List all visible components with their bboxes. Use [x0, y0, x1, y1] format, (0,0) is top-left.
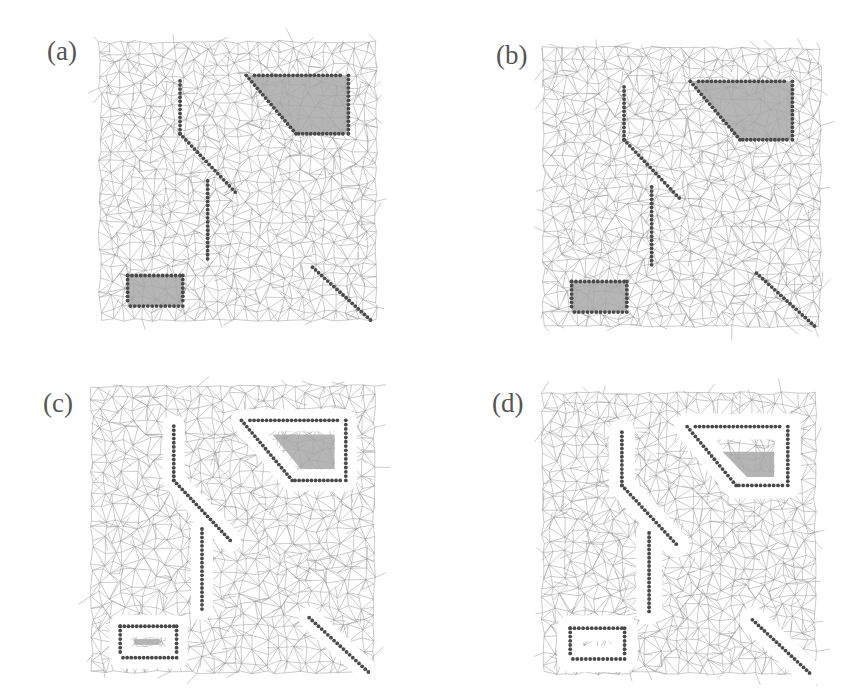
obstacle-node	[172, 441, 176, 445]
obstacle-node	[335, 288, 339, 292]
obstacle-node	[622, 93, 626, 97]
obstacle-node	[206, 216, 210, 220]
obstacle-node	[178, 107, 182, 111]
obstacle-node	[568, 626, 572, 630]
obstacle-node	[134, 274, 138, 278]
obstacle-node	[672, 190, 676, 194]
obstacle-node	[625, 310, 629, 314]
obstacle-node	[172, 458, 176, 462]
obstacle-node	[320, 274, 324, 278]
obstacle-node	[204, 159, 208, 163]
obstacle-node	[777, 138, 781, 142]
obstacle-node	[741, 484, 745, 488]
obstacle-node	[225, 181, 229, 185]
obstacle-node	[710, 425, 714, 429]
obstacle-node	[722, 79, 726, 83]
obstacle-node	[200, 573, 204, 577]
obstacle-node	[570, 300, 574, 304]
obstacle-node	[620, 455, 624, 459]
obstacle-node	[799, 663, 803, 667]
obstacle-node	[786, 429, 790, 433]
obstacle-node	[623, 657, 627, 661]
obstacle-node	[163, 304, 167, 308]
obstacle-node	[761, 277, 765, 281]
obstacle-node	[293, 478, 297, 482]
obstacle-node	[647, 560, 651, 564]
obstacle-node	[344, 436, 348, 440]
obstacle-node	[802, 666, 806, 670]
obstacle-node	[146, 304, 150, 308]
obstacle-node	[779, 294, 783, 298]
obstacle-node	[178, 91, 182, 95]
obstacle-node	[126, 274, 130, 278]
obstacle-node	[175, 624, 179, 628]
obstacle-node	[629, 493, 633, 497]
obstacle-node	[297, 478, 301, 482]
obstacle-node	[640, 505, 644, 509]
obstacle-node	[291, 73, 295, 77]
obstacle-node	[344, 444, 348, 448]
obstacle-node	[637, 153, 641, 157]
obstacle-node	[228, 539, 232, 543]
obstacle-node	[300, 73, 304, 77]
obstacle-node	[253, 73, 257, 77]
obstacle-node	[181, 294, 185, 298]
obstacle-node	[651, 518, 655, 522]
obstacle-node	[645, 162, 649, 166]
obstacle-node	[304, 73, 308, 77]
obstacle-node	[337, 132, 341, 136]
obstacle-node	[750, 484, 754, 488]
obstacle-node	[325, 73, 329, 77]
obstacle-node	[327, 418, 331, 422]
obstacle-node	[769, 635, 773, 639]
obstacle-node	[586, 626, 590, 630]
obstacle-node	[341, 132, 345, 136]
obstacle-node	[584, 657, 588, 661]
obstacle-node	[280, 116, 284, 120]
obstacle-node	[737, 484, 741, 488]
obstacle-node	[642, 159, 646, 163]
obstacle-node	[181, 278, 185, 282]
obstacle-node	[335, 418, 339, 422]
obstacle-node	[714, 79, 718, 83]
panel-label-c: (c)	[43, 388, 73, 419]
obstacle-node	[791, 305, 795, 309]
obstacle-node	[806, 319, 810, 323]
obstacle-node	[344, 466, 348, 470]
obstacle-node	[803, 316, 807, 320]
obstacle-node	[625, 300, 629, 304]
obstacle-node	[344, 448, 348, 452]
obstacle-node	[650, 226, 654, 230]
obstacle-node	[778, 79, 782, 83]
obstacle-node	[211, 521, 215, 525]
obstacle-node	[245, 425, 249, 429]
obstacle-node	[305, 132, 309, 136]
obstacle-node	[255, 86, 259, 90]
obstacle-node	[357, 662, 361, 666]
obstacle-node	[568, 647, 572, 651]
obstacle-node	[772, 484, 776, 488]
obstacle-node	[194, 503, 198, 507]
obstacle-node	[294, 418, 298, 422]
obstacle-node	[620, 447, 624, 451]
obstacle-node	[200, 586, 204, 590]
obstacle-node	[697, 89, 701, 93]
obstacle-node	[654, 172, 658, 176]
obstacle-node	[297, 132, 301, 136]
obstacle-node	[784, 649, 788, 653]
obstacle-node	[650, 251, 654, 255]
obstacle-node	[739, 79, 743, 83]
obstacle-node	[256, 437, 260, 441]
obstacle-node	[178, 112, 182, 116]
obstacle-node	[594, 310, 598, 314]
obstacle-node	[767, 484, 771, 488]
obstacle-node	[620, 479, 624, 483]
obstacle-node	[571, 657, 575, 661]
obstacle-node	[586, 310, 590, 314]
obstacle-node	[693, 435, 697, 439]
obstacle-node	[344, 423, 348, 427]
obstacle-node	[710, 454, 714, 458]
obstacle-node	[130, 274, 134, 278]
obstacle-node	[781, 646, 785, 650]
obstacle-node	[625, 280, 629, 284]
